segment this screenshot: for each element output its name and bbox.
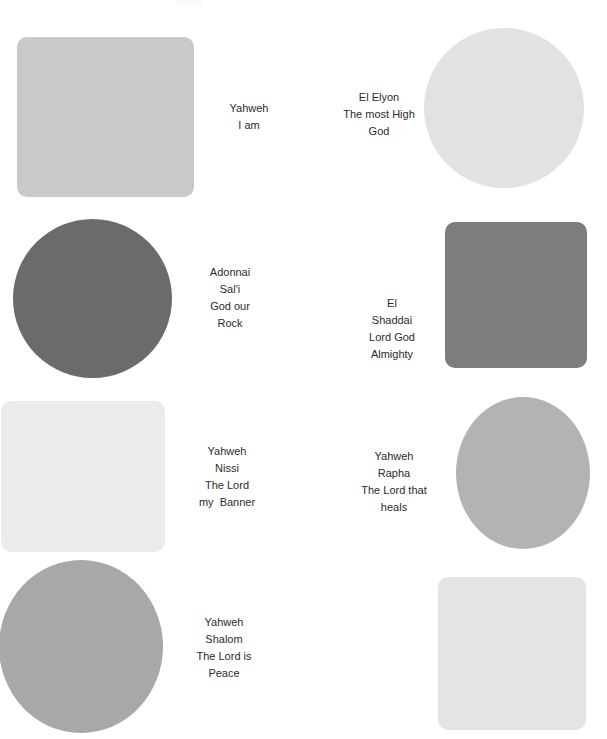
label-line: Yahweh (166, 614, 282, 631)
label-line: Lord God (340, 329, 444, 346)
shape-el-shaddai (445, 222, 587, 368)
shape-el-elyon (424, 28, 584, 188)
label-line: Shalom (166, 631, 282, 648)
label-line: Shaddai (340, 312, 444, 329)
label-line: Yahweh (168, 443, 286, 460)
label-yahweh: YahwehI am (194, 100, 304, 134)
label-line: Peace (166, 665, 282, 682)
label-yahweh-rapha: YahwehRaphaThe Lord thatheals (339, 448, 449, 516)
label-yahweh-nissi: YahwehNissiThe Lordmy Banner (168, 443, 286, 511)
label-el-elyon: El ElyonThe most HighGod (329, 89, 429, 140)
label-line: I am (194, 117, 304, 134)
label-line: Sal'i (175, 281, 285, 298)
shape-yahweh-shalom (0, 560, 163, 733)
label-line: Almighty (340, 346, 444, 363)
label-line: Yahweh (339, 448, 449, 465)
label-line: The Lord that (339, 482, 449, 499)
label-line: Rock (175, 315, 285, 332)
label-line: The most High (329, 106, 429, 123)
shape-adonnai-sali (13, 219, 172, 378)
shape-yahweh (17, 37, 194, 197)
label-line: Nissi (168, 460, 286, 477)
shape-unnamed-square (438, 577, 586, 730)
label-yahweh-shalom: YahwehShalomThe Lord isPeace (166, 614, 282, 682)
label-line: my Banner (168, 494, 286, 511)
page-top-artifact (176, 0, 202, 9)
shape-yahweh-rapha (456, 397, 590, 549)
label-line: God (329, 123, 429, 140)
label-line: heals (339, 499, 449, 516)
label-line: Rapha (339, 465, 449, 482)
label-line: El (340, 295, 444, 312)
label-line: God our (175, 298, 285, 315)
label-line: The Lord (168, 477, 286, 494)
label-line: El Elyon (329, 89, 429, 106)
shape-yahweh-nissi (1, 401, 165, 552)
label-line: The Lord is (166, 648, 282, 665)
label-line: Adonnai (175, 264, 285, 281)
label-line: Yahweh (194, 100, 304, 117)
label-el-shaddai: ElShaddaiLord GodAlmighty (340, 295, 444, 363)
names-of-god-diagram: YahwehI amEl ElyonThe most HighGodAdonna… (0, 0, 607, 739)
label-adonnai-sali: AdonnaiSal'iGod ourRock (175, 264, 285, 332)
